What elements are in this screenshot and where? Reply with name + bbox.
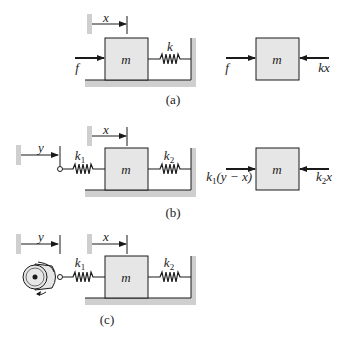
input-pin — [58, 167, 63, 172]
rotating-cam — [23, 262, 56, 296]
right-wall — [191, 38, 196, 87]
caption-c: (c) — [100, 312, 114, 327]
ground — [85, 190, 193, 197]
force-label-f: f — [75, 60, 81, 75]
spring-k2 — [148, 164, 191, 174]
panel-b-free-body: m k1(y − x) k2x — [206, 148, 332, 190]
spring-label-k2: k2 — [164, 255, 174, 272]
mass-label: m — [121, 52, 130, 67]
mass-label: m — [121, 162, 130, 177]
ground — [85, 80, 193, 87]
spring-label-k: k — [167, 39, 173, 54]
reference-wall-y — [16, 145, 21, 165]
displacement-label-x: x — [102, 10, 109, 25]
panel-a-free-body: m f kx — [225, 38, 330, 80]
mass-spring-diagram: x m k f m f kx (a) y x — [0, 0, 346, 339]
reference-wall-x — [87, 126, 92, 146]
free-body-mass-label: m — [272, 162, 281, 177]
displacement-label-y: y — [36, 229, 44, 244]
spring-label-k1: k1 — [75, 255, 85, 272]
reference-wall — [87, 14, 92, 34]
spring-k2 — [148, 272, 191, 282]
spring-label-k2: k2 — [164, 148, 174, 165]
displacement-label-x: x — [102, 229, 109, 244]
caption-b: (b) — [165, 205, 180, 220]
mass-label: m — [121, 270, 130, 285]
panel-b-system: y x m k1 k2 — [16, 122, 196, 197]
spring-k1 — [63, 272, 105, 282]
input-pin — [58, 275, 63, 280]
free-body-mass-label: m — [272, 52, 281, 67]
force-label-k1-y-minus-x: k1(y − x) — [206, 169, 252, 186]
force-label-f: f — [225, 60, 231, 75]
axle-icon — [33, 275, 38, 280]
ground — [85, 298, 193, 305]
spring-label-k1: k1 — [75, 148, 85, 165]
spring-k — [148, 54, 191, 64]
panel-a-system: x m k f — [75, 10, 196, 87]
right-wall — [191, 148, 196, 197]
displacement-label-x: x — [102, 122, 109, 137]
displacement-label-y: y — [36, 140, 44, 155]
spring-k1 — [63, 164, 105, 174]
panel-c-system: y x m k1 k2 — [16, 229, 196, 305]
caption-a: (a) — [166, 92, 180, 107]
force-label-k2x: k2x — [316, 169, 332, 186]
reference-wall-y — [16, 234, 21, 254]
force-label-kx: kx — [318, 60, 330, 75]
right-wall — [191, 256, 196, 305]
reference-wall-x — [87, 234, 92, 254]
